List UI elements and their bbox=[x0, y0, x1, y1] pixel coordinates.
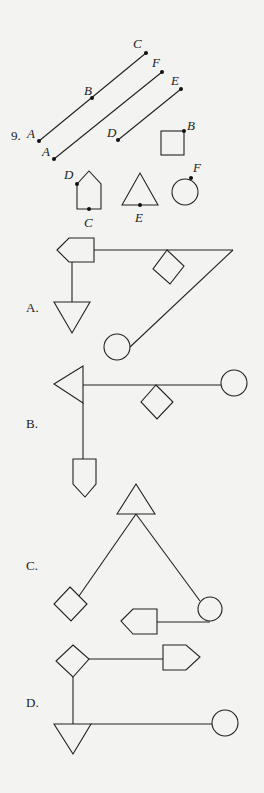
puzzle-figure bbox=[0, 0, 264, 793]
option-a-label[interactable]: A. bbox=[26, 300, 39, 316]
point-label-c: C bbox=[133, 36, 142, 52]
point-label-a1: A bbox=[27, 126, 35, 142]
option-c-figure bbox=[54, 484, 222, 634]
option-c-label[interactable]: C. bbox=[26, 558, 38, 574]
option-b-label[interactable]: B. bbox=[26, 416, 38, 432]
point-label-f: F bbox=[152, 55, 160, 71]
pentagon-label-d: D bbox=[64, 167, 73, 183]
point-label-b: B bbox=[84, 83, 92, 99]
point-label-d: D bbox=[107, 125, 116, 141]
point-label-e: E bbox=[171, 73, 179, 89]
question-shapes bbox=[75, 129, 198, 211]
option-b-figure bbox=[54, 366, 247, 497]
option-a-figure bbox=[54, 238, 233, 360]
triangle-label-e: E bbox=[135, 210, 143, 226]
square-label-b: B bbox=[187, 118, 195, 134]
point-label-a2: A bbox=[42, 144, 50, 160]
option-d-label[interactable]: D. bbox=[26, 695, 39, 711]
circle-label-f: F bbox=[193, 160, 201, 176]
question-number: 9. bbox=[11, 128, 21, 144]
pentagon-label-c: C bbox=[84, 215, 93, 231]
option-d-figure bbox=[54, 645, 238, 754]
